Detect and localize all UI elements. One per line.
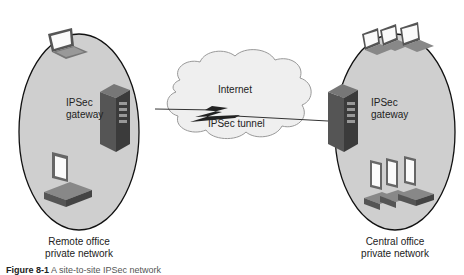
figure-caption-prefix: Figure 8-1 bbox=[6, 265, 49, 275]
central-network-label: Central office private network bbox=[338, 236, 452, 260]
remote-network-label-line1: Remote office bbox=[22, 236, 136, 248]
remote-network-label: Remote office private network bbox=[22, 236, 136, 260]
tunnel-label: IPSec tunnel bbox=[208, 118, 265, 130]
figure-caption-text: A site-to-site IPSec network bbox=[51, 265, 161, 275]
central-network-label-line1: Central office bbox=[338, 236, 452, 248]
central-gateway-label-line1: IPSec bbox=[371, 97, 408, 109]
remote-network-label-line2: private network bbox=[22, 248, 136, 260]
central-gateway-label-line2: gateway bbox=[371, 109, 408, 121]
remote-gateway-label: IPSec gateway bbox=[66, 97, 103, 121]
remote-gateway-label-line2: gateway bbox=[66, 109, 103, 121]
central-gateway-label: IPSec gateway bbox=[371, 97, 408, 121]
figure-caption: Figure 8-1 A site-to-site IPSec network bbox=[6, 265, 161, 275]
internet-label: Internet bbox=[218, 84, 252, 96]
central-network-label-line2: private network bbox=[338, 248, 452, 260]
central-gateway-server-icon bbox=[328, 84, 358, 152]
remote-gateway-label-line1: IPSec bbox=[66, 97, 103, 109]
remote-gateway-server-icon bbox=[100, 84, 130, 152]
